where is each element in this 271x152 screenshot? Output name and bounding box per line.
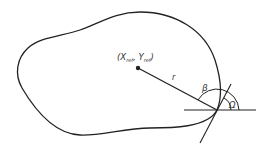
reference-point-label: (Xref, Yref) [117,52,154,63]
radius-label: r [172,73,176,82]
beta-label: β [201,83,208,93]
closed-boundary-curve [17,12,220,135]
boundary-diagram: (Xref, Yref) r β Ω [0,0,271,152]
omega-label: Ω [228,100,236,110]
